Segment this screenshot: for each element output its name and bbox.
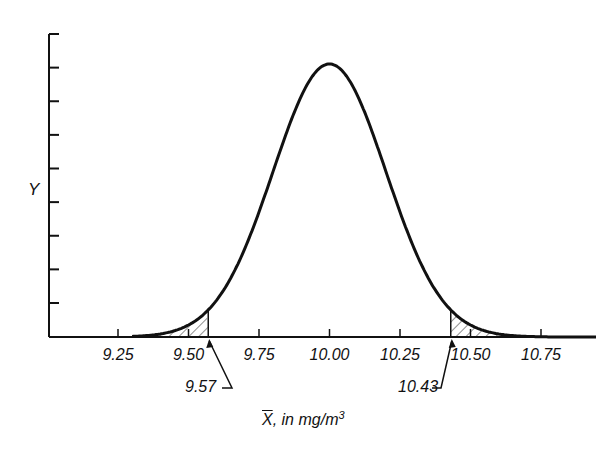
x-tick-label: 10.75 (521, 346, 561, 364)
x-tick-label: 9.25 (102, 346, 133, 364)
x-bar-symbol: X (262, 411, 273, 428)
axes (49, 34, 585, 337)
x-axis-unit-text: , in mg/m (273, 411, 339, 428)
annotation-label: 9.57 (185, 378, 216, 396)
x-tick-label: 10.00 (309, 346, 349, 364)
normal-curve-chart (0, 0, 603, 457)
x-tick-label: 10.50 (450, 346, 490, 364)
x-axis-unit-exponent: 3 (338, 409, 344, 421)
normal-curve (132, 64, 596, 337)
x-tick-label: 9.50 (173, 346, 204, 364)
annotation-label: 10.43 (398, 378, 438, 396)
shaded-tail-regions (132, 310, 569, 337)
x-tick-label: 9.75 (243, 346, 274, 364)
y-axis-label: Y (28, 180, 39, 200)
x-tick-label: 10.25 (380, 346, 420, 364)
x-axis-title: X, in mg/m3 (262, 409, 345, 429)
